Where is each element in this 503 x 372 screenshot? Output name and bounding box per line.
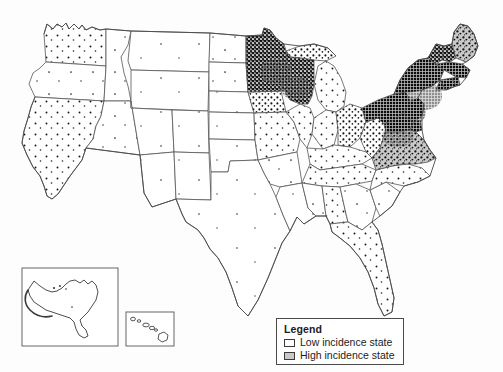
legend-item-high-incidence: High incidence state bbox=[284, 349, 397, 362]
state-north-dakota bbox=[209, 33, 246, 63]
state-new-mexico bbox=[174, 152, 211, 200]
alaska-inset bbox=[22, 268, 118, 346]
state-nebraska bbox=[209, 91, 254, 113]
map-canvas bbox=[0, 0, 503, 372]
legend-title: Legend bbox=[284, 323, 397, 335]
us-lyme-disease-map: Reported Cases bbox=[0, 0, 503, 372]
state-iowa bbox=[248, 91, 286, 113]
state-colorado bbox=[172, 110, 209, 153]
state-washington bbox=[44, 23, 106, 66]
state-south-dakota bbox=[209, 62, 248, 92]
state-wyoming bbox=[131, 70, 209, 111]
state-oregon bbox=[29, 62, 106, 101]
legend-item-low-incidence: Low incidence state bbox=[284, 336, 397, 349]
state-kansas bbox=[209, 112, 255, 140]
state-montana bbox=[128, 31, 210, 72]
legend: Legend Low incidence state High incidenc… bbox=[276, 318, 404, 365]
legend-label-low-incidence: Low incidence state bbox=[300, 336, 392, 349]
legend-label-high-incidence: High incidence state bbox=[300, 349, 395, 362]
legend-swatch-high-incidence bbox=[284, 352, 295, 360]
legend-swatch-low-incidence bbox=[284, 339, 295, 347]
hawaii-inset bbox=[126, 312, 174, 346]
